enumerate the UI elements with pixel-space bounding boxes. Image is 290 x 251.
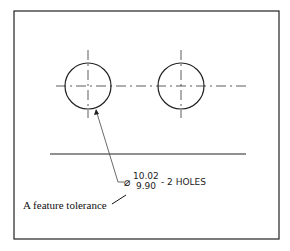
annotation-label: A feature tolerance [23, 199, 107, 211]
annotation-pointer [112, 195, 126, 204]
dimension-leader [96, 110, 124, 182]
drawing-canvas: ⌀ 10.02 9.90 - 2 HOLES A feature toleran… [0, 0, 290, 251]
leader-arrowhead [94, 109, 99, 115]
lower-limit: 9.90 [136, 181, 156, 191]
upper-limit: 10.02 [133, 171, 159, 181]
hole-count: - 2 HOLES [161, 177, 206, 187]
diameter-symbol: ⌀ [124, 176, 131, 189]
hole-left [65, 50, 111, 118]
hole-right [158, 50, 204, 118]
